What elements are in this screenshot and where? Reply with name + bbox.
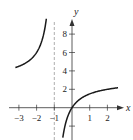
x-tick-label: −2 [32,113,42,123]
y-tick-label: 8 [63,29,68,39]
left-branch-curve [15,19,46,68]
x-tick-label: −1 [50,113,60,123]
tick-marks: −3−2−1122468 [14,29,110,126]
x-tick-label: 1 [87,113,92,123]
x-tick-label: 2 [105,113,110,123]
x-axis-label: x [125,102,131,113]
y-tick-label: 4 [63,66,68,76]
y-tick-label: 6 [63,48,68,58]
y-axis-label: y [73,6,79,17]
y-tick-label: 2 [63,84,68,94]
function-graph: −3−2−1122468 x y [0,0,133,140]
graph-canvas: −3−2−1122468 x y [0,0,133,140]
x-tick-label: −3 [14,113,24,123]
